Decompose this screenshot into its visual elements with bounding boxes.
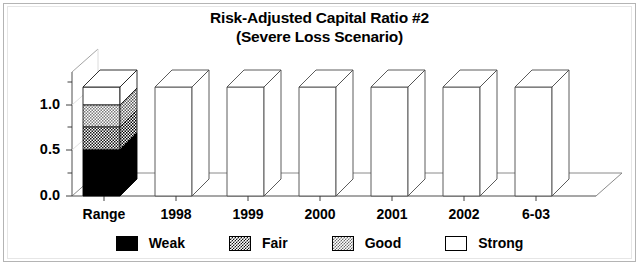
y-axis-label-1.0: 1.0 bbox=[16, 96, 60, 112]
x-axis-label-2002: 2002 bbox=[424, 206, 504, 222]
legend-label-weak: Weak bbox=[149, 235, 185, 251]
bar-2000 bbox=[299, 70, 353, 196]
legend-label-strong: Strong bbox=[478, 235, 523, 251]
y-axis-ticks bbox=[66, 82, 72, 196]
chart-figure: Risk-Adjusted Capital Ratio #2 (Severe L… bbox=[0, 0, 639, 265]
legend-swatch-weak-icon bbox=[116, 236, 138, 251]
x-axis-label-1999: 1999 bbox=[208, 206, 288, 222]
legend-label-fair: Fair bbox=[262, 235, 288, 251]
plot-svg bbox=[0, 0, 639, 265]
bar-2001 bbox=[371, 70, 425, 196]
x-axis-label-range: Range bbox=[64, 206, 144, 222]
legend-swatch-good-icon bbox=[332, 236, 354, 251]
legend-item-weak: Weak bbox=[116, 235, 185, 251]
y-axis-label-0.5: 0.5 bbox=[16, 141, 60, 157]
legend-label-good: Good bbox=[365, 235, 402, 251]
y-axis-label-0.0: 0.0 bbox=[16, 187, 60, 203]
plot-area bbox=[0, 0, 639, 265]
bar-2002 bbox=[443, 70, 497, 196]
x-axis-ticks bbox=[104, 196, 536, 201]
x-axis-label-6-03: 6-03 bbox=[496, 206, 576, 222]
chart-legend: Weak Fair Good Strong bbox=[0, 231, 639, 255]
x-axis-label-1998: 1998 bbox=[136, 206, 216, 222]
bar-range bbox=[83, 70, 137, 196]
bar-6-03 bbox=[515, 70, 569, 196]
bar-1998 bbox=[155, 70, 209, 196]
legend-swatch-fair-icon bbox=[229, 236, 251, 251]
legend-item-strong: Strong bbox=[445, 235, 523, 251]
bar-1999 bbox=[227, 70, 281, 196]
legend-item-fair: Fair bbox=[229, 235, 288, 251]
x-axis-label-2000: 2000 bbox=[280, 206, 360, 222]
x-axis-label-2001: 2001 bbox=[352, 206, 432, 222]
legend-item-good: Good bbox=[332, 235, 402, 251]
legend-swatch-strong-icon bbox=[445, 236, 467, 251]
